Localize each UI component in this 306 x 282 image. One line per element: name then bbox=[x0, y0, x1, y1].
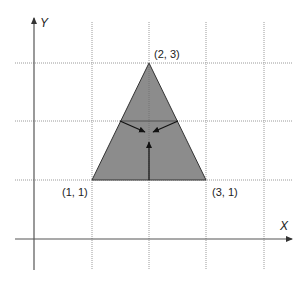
vertex-label-apex: (2, 3) bbox=[154, 48, 180, 60]
vertex-label-right: (3, 1) bbox=[212, 186, 238, 198]
x-axis-label: X bbox=[279, 219, 289, 233]
coordinate-diagram: Y X (2, 3) (1, 1) (3, 1) bbox=[0, 0, 306, 282]
y-axis-label: Y bbox=[40, 16, 49, 30]
vertex-label-left: (1, 1) bbox=[62, 186, 88, 198]
